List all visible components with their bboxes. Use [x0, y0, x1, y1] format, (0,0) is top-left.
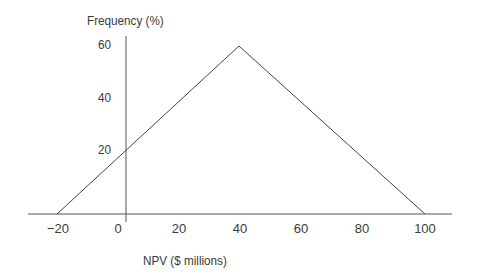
x-tick-80: 80 [342, 221, 382, 236]
y-axis-label: Frequency (%) [87, 13, 164, 28]
x-tick-60: 60 [281, 221, 321, 236]
triangular-distribution-line [57, 46, 425, 214]
y-tick-40: 40 [84, 90, 111, 105]
y-tick-20: 20 [84, 142, 111, 157]
npv-frequency-chart: Frequency (%) 60 40 20 −20 0 20 40 60 80… [0, 0, 477, 278]
x-tick-20: 20 [159, 221, 199, 236]
chart-canvas [0, 0, 477, 278]
x-tick-40: 40 [220, 221, 260, 236]
x-tick-100: 100 [405, 221, 445, 236]
y-tick-60: 60 [84, 37, 111, 52]
x-tick-neg20: −20 [38, 221, 78, 236]
x-axis-label: NPV ($ millions) [143, 253, 227, 268]
x-tick-0: 0 [98, 221, 138, 236]
